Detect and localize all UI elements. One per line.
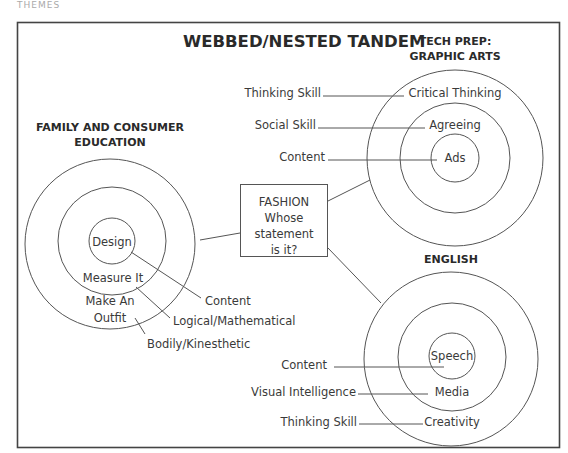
family-callout-bodily: Bodily/Kinesthetic bbox=[147, 337, 250, 351]
tech-prep-ring-middle: Agreeing bbox=[429, 118, 481, 132]
connector-english bbox=[328, 248, 381, 303]
english-ring-inner: Speech bbox=[431, 349, 473, 363]
webbed-nested-diagram: WEBBED/NESTED TANDEM TECH PREP: GRAPHIC … bbox=[0, 0, 568, 453]
diagram-title: WEBBED/NESTED TANDEM bbox=[183, 32, 426, 51]
tech-prep-heading-1: TECH PREP: bbox=[419, 35, 492, 48]
center-box-line-4: is it? bbox=[271, 243, 298, 257]
tech-prep-callout-content: Content bbox=[279, 150, 325, 164]
english-heading: ENGLISH bbox=[424, 253, 478, 266]
center-box-line-1: FASHION bbox=[259, 195, 309, 209]
family-ring-inner: Design bbox=[92, 235, 132, 249]
tech-prep-ring-outer: Critical Thinking bbox=[408, 86, 501, 100]
family-ring-outer-1: Make An bbox=[85, 294, 134, 308]
english-ring-outer: Creativity bbox=[424, 415, 480, 429]
center-box-line-2: Whose bbox=[265, 211, 304, 225]
connector-tech-prep bbox=[328, 180, 370, 201]
family-heading-1: FAMILY AND CONSUMER bbox=[36, 121, 185, 134]
family-ring-middle: Measure It bbox=[83, 271, 144, 285]
center-box-line-3: statement bbox=[254, 227, 314, 241]
tech-prep-callout-social: Social Skill bbox=[255, 118, 316, 132]
family-callout-content: Content bbox=[205, 294, 251, 308]
english-callout-content: Content bbox=[281, 358, 327, 372]
family-ring-outer-2: Outfit bbox=[94, 311, 127, 325]
tech-prep-callout-thinking: Thinking Skill bbox=[244, 86, 321, 100]
tech-prep-heading-2: GRAPHIC ARTS bbox=[409, 50, 500, 63]
connector-family bbox=[200, 233, 240, 240]
english-ring-middle: Media bbox=[435, 385, 470, 399]
family-callout-logical: Logical/Mathematical bbox=[173, 314, 296, 328]
tech-prep-ring-inner: Ads bbox=[445, 151, 466, 165]
family-heading-2: EDUCATION bbox=[74, 136, 145, 149]
english-callout-visual: Visual Intelligence bbox=[251, 385, 356, 399]
english-callout-thinking: Thinking Skill bbox=[280, 415, 357, 429]
